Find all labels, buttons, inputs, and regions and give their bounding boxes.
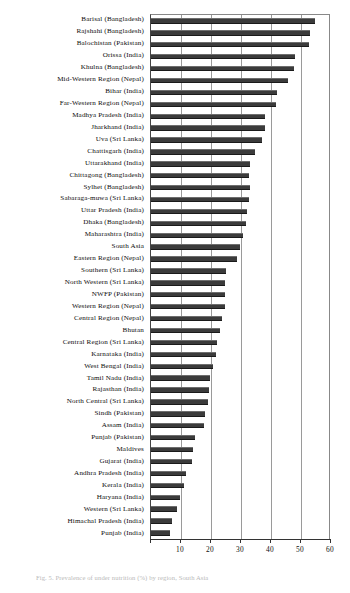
bar-row — [151, 253, 329, 265]
category-label: South Asia — [0, 241, 147, 253]
category-label: Maldives — [0, 444, 147, 456]
bar-chart-figure: Barisal (Bangladesh)Rajshahi (Bangladesh… — [0, 0, 350, 593]
bar-row — [151, 408, 329, 420]
plot-area — [150, 14, 330, 539]
x-tick — [180, 539, 181, 543]
bar-row — [151, 444, 329, 456]
bar-row — [151, 467, 329, 479]
bar-row — [151, 146, 329, 158]
bar — [151, 411, 205, 416]
x-tick — [270, 539, 271, 543]
category-label: Andhra Pradesh (India) — [0, 468, 147, 480]
bar — [151, 447, 193, 452]
category-label: Uttarakhand (India) — [0, 157, 147, 169]
bar — [151, 423, 204, 428]
x-tick-label: 60 — [326, 545, 334, 554]
bar — [151, 506, 177, 511]
category-label: Bihar (India) — [0, 86, 147, 98]
bar — [151, 102, 276, 107]
bar — [151, 66, 294, 71]
category-label: Barisal (Bangladesh) — [0, 14, 147, 26]
bar-row — [151, 277, 329, 289]
bar — [151, 518, 172, 523]
category-label: Sindh (Pakistan) — [0, 408, 147, 420]
bar — [151, 209, 247, 214]
bar — [151, 316, 222, 321]
bar-row — [151, 289, 329, 301]
bar — [151, 387, 209, 392]
bar-row — [151, 527, 329, 539]
category-label: Central Region (Sri Lanka) — [0, 336, 147, 348]
bar-row — [151, 194, 329, 206]
category-label: West Bengal (India) — [0, 360, 147, 372]
bar — [151, 530, 170, 535]
bar-row — [151, 27, 329, 39]
x-tick-label: 20 — [206, 545, 214, 554]
bar — [151, 137, 262, 142]
bar — [151, 292, 225, 297]
bar — [151, 483, 184, 488]
bar-row — [151, 134, 329, 146]
category-label: Assam (India) — [0, 420, 147, 432]
bar — [151, 114, 265, 119]
category-label: Himachal Pradesh (India) — [0, 515, 147, 527]
bar-row — [151, 75, 329, 87]
bar-row — [151, 456, 329, 468]
bar — [151, 304, 225, 309]
bar-row — [151, 336, 329, 348]
bar — [151, 280, 225, 285]
category-label: Mid-Western Region (Nepal) — [0, 74, 147, 86]
bar-row — [151, 372, 329, 384]
category-label: Jharkhand (India) — [0, 121, 147, 133]
bar-row — [151, 206, 329, 218]
bar — [151, 352, 216, 357]
category-label: Balochistan (Pakistan) — [0, 38, 147, 50]
category-label: Punjab (India) — [0, 527, 147, 539]
category-label: Eastern Region (Nepal) — [0, 253, 147, 265]
bar-row — [151, 396, 329, 408]
category-label: Western Region (Nepal) — [0, 301, 147, 313]
category-label: Uttar Pradesh (India) — [0, 205, 147, 217]
x-tick — [330, 539, 331, 543]
bar — [151, 161, 250, 166]
bar — [151, 78, 288, 83]
bar-row — [151, 491, 329, 503]
bar — [151, 185, 250, 190]
category-label: Sylhet (Bangladesh) — [0, 181, 147, 193]
category-label: North Western (Sri Lanka) — [0, 277, 147, 289]
bar-row — [151, 86, 329, 98]
bar-row — [151, 98, 329, 110]
category-label: Khulna (Bangladesh) — [0, 62, 147, 74]
bar — [151, 197, 249, 202]
category-label: Maharashtra (India) — [0, 229, 147, 241]
bar — [151, 173, 249, 178]
category-label: Madhya Pradesh (India) — [0, 110, 147, 122]
x-tick-label: 50 — [296, 545, 304, 554]
bar — [151, 459, 192, 464]
x-tick-label: 40 — [266, 545, 274, 554]
bar — [151, 221, 246, 226]
category-label: North Central (Sri Lanka) — [0, 396, 147, 408]
bar-row — [151, 122, 329, 134]
bar — [151, 125, 265, 130]
category-label: Chittagong (Bangladesh) — [0, 169, 147, 181]
bar-row — [151, 39, 329, 51]
bar — [151, 435, 195, 440]
category-label: Bhutan — [0, 324, 147, 336]
plot-wrapper: Barisal (Bangladesh)Rajshahi (Bangladesh… — [0, 14, 350, 544]
bar — [151, 90, 277, 95]
category-label: Uva (Sri Lanka) — [0, 133, 147, 145]
bar — [151, 268, 226, 273]
bar-row — [151, 170, 329, 182]
bar — [151, 18, 315, 23]
bar — [151, 149, 255, 154]
bar-row — [151, 420, 329, 432]
bar-row — [151, 384, 329, 396]
category-label: Orissa (India) — [0, 50, 147, 62]
category-label: Dhaka (Bangladesh) — [0, 217, 147, 229]
bar-row — [151, 301, 329, 313]
x-tick-label: 10 — [176, 545, 184, 554]
category-label: Haryana (India) — [0, 492, 147, 504]
category-label: Karnataka (India) — [0, 348, 147, 360]
bar — [151, 399, 208, 404]
